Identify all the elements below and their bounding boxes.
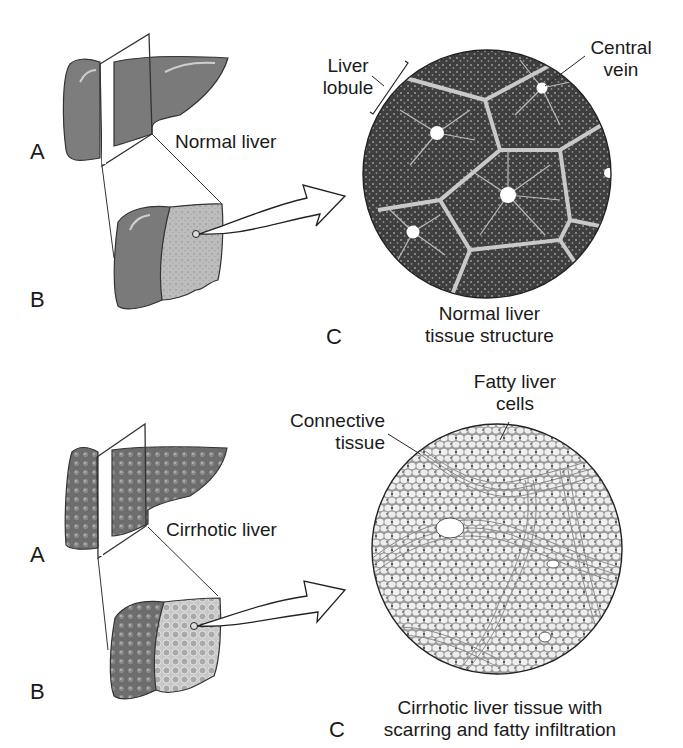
normal-label-a: A xyxy=(30,140,45,164)
cirrhotic-label-c: C xyxy=(329,718,345,742)
normal-tissue-circle xyxy=(363,50,620,300)
fatty-liver-cells-label: Fatty liver cells xyxy=(465,371,565,415)
diagram-canvas xyxy=(0,0,683,748)
cirrhotic-liver-slice xyxy=(110,598,220,699)
central-vein-label: Central vein xyxy=(586,37,656,81)
cirrhotic-label-b: B xyxy=(30,680,45,704)
cirrhotic-label-a: A xyxy=(30,543,45,567)
connective-tissue-label: Connective tissue xyxy=(285,410,385,454)
cirrhotic-liver-label: Cirrhotic liver xyxy=(166,519,277,541)
liver-lobule-label: Liver lobule xyxy=(318,55,378,99)
normal-liver-slice xyxy=(114,204,223,309)
normal-tissue-caption: Normal liver tissue structure xyxy=(412,303,567,347)
cirrhotic-tissue-caption: Cirrhotic liver tissue with scarring and… xyxy=(355,697,645,741)
cirrhotic-tissue-circle xyxy=(370,424,650,680)
normal-liver-label: Normal liver xyxy=(175,131,276,153)
normal-label-b: B xyxy=(30,288,45,312)
normal-label-c: C xyxy=(326,325,342,349)
